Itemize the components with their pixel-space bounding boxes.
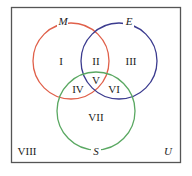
universe-label: U [164, 145, 173, 157]
set-s-label: S [93, 145, 99, 157]
region-viii-label: VIII [18, 145, 37, 157]
region-iv-label: IV [72, 83, 84, 95]
venn-diagram: M E S U I II III IV V VI VII VIII [0, 0, 192, 176]
set-m-label: M [57, 15, 68, 27]
region-v-label: V [92, 74, 100, 86]
region-vi-label: VI [108, 83, 120, 95]
region-iii-label: III [126, 55, 137, 67]
region-vii-label: VII [88, 111, 104, 123]
set-e-label: E [125, 15, 133, 27]
region-ii-label: II [92, 55, 100, 67]
region-i-label: I [59, 55, 63, 67]
